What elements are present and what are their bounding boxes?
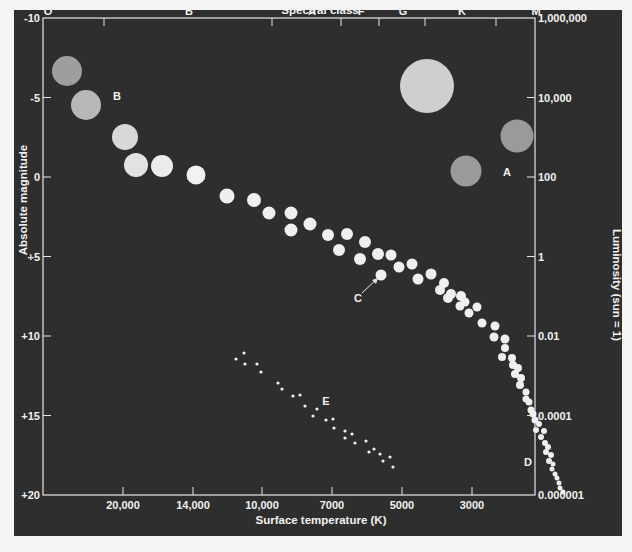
magnitude-label: +5 xyxy=(27,251,40,263)
magnitude-label: 0 xyxy=(34,171,40,183)
luminosity-label: 0.01 xyxy=(538,330,559,342)
luminosity-label: 1,000,000 xyxy=(538,12,587,24)
giant-star xyxy=(451,156,482,187)
giant-star xyxy=(71,90,101,120)
main-sequence-star xyxy=(407,259,418,270)
white-dwarf-star xyxy=(343,429,346,432)
main-sequence-star xyxy=(498,353,506,361)
white-dwarf-star xyxy=(381,459,384,462)
magnitude-label: +10 xyxy=(21,330,40,342)
main-sequence-star xyxy=(541,428,547,434)
white-dwarf-star xyxy=(291,394,294,397)
giant-star xyxy=(187,166,206,185)
main-sequence-star xyxy=(263,207,276,220)
main-sequence-star xyxy=(304,218,317,231)
main-sequence-star xyxy=(372,248,384,260)
main-sequence-star xyxy=(508,354,516,362)
main-sequence-star xyxy=(533,427,539,433)
main-sequence-star xyxy=(473,303,482,312)
main-sequence-star xyxy=(359,236,371,248)
main-sequence-star xyxy=(548,452,554,458)
luminosity-title: Luminosity (sun = 1) xyxy=(611,229,623,341)
main-sequence-star xyxy=(247,193,261,207)
white-dwarf-star xyxy=(378,452,381,455)
spectral-class-ticks xyxy=(104,18,496,26)
luminosity-label: 0.0001 xyxy=(538,410,572,422)
white-dwarf-star xyxy=(364,439,367,442)
white-dwarf-star xyxy=(234,357,237,360)
giant-star xyxy=(52,56,82,86)
main-sequence-star xyxy=(516,381,524,389)
giant-star xyxy=(501,120,534,153)
white-dwarf-star xyxy=(242,351,245,354)
spectral-class-K: K xyxy=(458,5,466,17)
white-dwarf-star xyxy=(259,370,262,373)
main-sequence-stars xyxy=(220,189,566,495)
main-sequence-star xyxy=(501,335,510,344)
white-dwarf-star xyxy=(303,404,306,407)
region-label-C: C xyxy=(354,292,362,304)
main-sequence-star xyxy=(413,274,424,285)
white-dwarf-star xyxy=(353,441,356,444)
main-sequence-star xyxy=(285,224,298,237)
magnitude-label: -10 xyxy=(24,12,40,24)
white-dwarf-star xyxy=(388,455,391,458)
main-sequence-star xyxy=(517,374,525,382)
white-dwarf-star xyxy=(276,381,279,384)
main-sequence-star xyxy=(285,207,298,220)
main-sequence-star xyxy=(501,344,509,352)
region-label-D: D xyxy=(524,456,532,468)
giant-star xyxy=(151,155,173,177)
main-sequence-star xyxy=(322,229,334,241)
main-sequence-star xyxy=(394,262,405,273)
main-sequence-star xyxy=(561,490,566,495)
main-sequence-star xyxy=(465,309,474,318)
white-dwarf-star xyxy=(243,362,246,365)
main-sequence-star xyxy=(456,302,465,311)
main-sequence-star xyxy=(333,244,345,256)
spectral-class-B: B xyxy=(185,5,193,17)
main-sequence-star xyxy=(426,269,437,280)
luminosity-label: 10,000 xyxy=(538,92,572,104)
main-sequence-star xyxy=(435,285,445,295)
main-sequence-star xyxy=(490,333,499,342)
main-sequence-star xyxy=(551,462,556,467)
magnitude-label: +15 xyxy=(21,410,40,422)
magnitude-label: +20 xyxy=(21,489,40,501)
giant-star xyxy=(112,124,138,150)
white-dwarf-stars xyxy=(234,351,394,468)
main-sequence-star xyxy=(220,189,235,204)
temperature-label: 20,000 xyxy=(106,499,140,511)
temperature-label: 10,000 xyxy=(245,499,279,511)
main-sequence-star xyxy=(354,253,366,265)
white-dwarf-star xyxy=(315,407,318,410)
white-dwarf-star xyxy=(255,362,258,365)
main-sequence-star xyxy=(386,250,397,261)
main-sequence-star xyxy=(536,421,542,427)
main-sequence-star xyxy=(557,481,562,486)
region-label-A: A xyxy=(503,166,511,178)
white-dwarf-star xyxy=(350,432,353,435)
giant-stars xyxy=(52,56,534,187)
main-sequence-star xyxy=(491,322,500,331)
main-sequence-star xyxy=(555,476,560,481)
main-sequence-star xyxy=(538,434,544,440)
absolute-magnitude-axis: -10-50+5+10+15+20 xyxy=(21,12,51,501)
white-dwarf-star xyxy=(311,414,314,417)
spectral-class-O: O xyxy=(44,5,53,17)
white-dwarf-star xyxy=(331,417,334,420)
absolute-magnitude-title: Absolute magnitude xyxy=(17,145,29,256)
main-sequence-star xyxy=(526,399,533,406)
temperature-label: 14,000 xyxy=(176,499,210,511)
giant-star xyxy=(400,59,454,113)
white-dwarf-star xyxy=(280,387,283,390)
white-dwarf-star xyxy=(372,447,375,450)
main-sequence-star xyxy=(443,293,453,303)
giant-star xyxy=(124,153,148,177)
temperature-label: 5000 xyxy=(390,499,414,511)
hr-diagram: OBAFGKM Spectral class -10-50+5+10+15+20… xyxy=(0,0,632,552)
spectral-class-title: Spectral class xyxy=(281,4,358,16)
temperature-label: 3000 xyxy=(460,499,484,511)
main-sequence-star xyxy=(530,411,537,418)
white-dwarf-star xyxy=(391,465,394,468)
